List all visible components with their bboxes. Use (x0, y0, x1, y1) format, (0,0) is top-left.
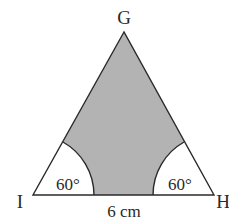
angle-label-left: 60° (56, 175, 80, 194)
base-length-label: 6 cm (107, 202, 141, 221)
angle-label-right: 60° (168, 175, 192, 194)
vertex-label-h: H (216, 191, 229, 212)
vertex-label-i: I (17, 191, 23, 212)
vertex-label-g: G (117, 7, 131, 28)
triangle-diagram: G I H 60° 60° 6 cm (0, 0, 229, 222)
